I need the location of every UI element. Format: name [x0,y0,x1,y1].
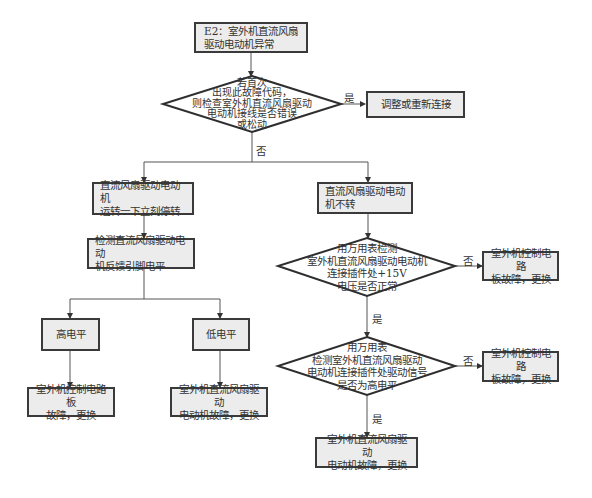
check-feedback-node: 检测直流风扇驱动电动 机反馈引脚电平 [87,238,195,269]
result-board-right1-node: 室外机控制电路 板故障，更换 [482,251,559,281]
symptom-no-spin-node: 直流风扇驱动电动 机不转 [317,182,413,214]
edge-label-d2-no: 否 [463,253,473,268]
action-reconnect-node: 调整或重新连接 [366,91,465,118]
decision1-node: 若首次 出现此故障代码， 则检查室外机直流风扇驱动 电动机接线是否错误 或松动 [178,78,326,130]
symptom-no-spin-text: 直流风扇驱动电动 机不转 [325,185,405,211]
action-reconnect-text: 调整或重新连接 [381,98,451,111]
decision1-text: 若首次 出现此故障代码， 则检查室外机直流风扇驱动 电动机接线是否错误 或松动 [192,78,312,131]
edge-label-d1-yes: 是 [344,90,354,105]
result-board-right2-text: 室外机控制电路 板故障，更换 [490,347,551,386]
edge-label-d2-yes: 是 [372,311,382,326]
symptom-stop-text: 直流风扇驱动电动机 运转一下立刻停转 [100,179,186,218]
edge-label-d3-yes: 是 [372,411,382,426]
high-level-node: 高电平 [41,318,100,351]
low-level-node: 低电平 [192,318,250,351]
result-board-right2-node: 室外机控制电路 板故障，更换 [482,351,559,382]
start-node: E2：室外机直流风扇 驱动电动机异常 [194,22,308,53]
low-level-text: 低电平 [206,328,236,341]
symptom-stop-node: 直流风扇驱动电动机 运转一下立刻停转 [92,182,194,215]
check-feedback-text: 检测直流风扇驱动电动 机反馈引脚电平 [95,234,187,273]
edge-label-d3-no: 否 [463,353,473,368]
decision3-text: 用万用表 检测室外机直流风扇驱动 电动机连接插件处驱动信号 是否为高电平 [307,341,427,391]
start-node-text: E2：室外机直流风扇 驱动电动机异常 [204,25,298,51]
decision2-node: 用万用表检测 室外机直流风扇驱动电动机 连接插件处+15V 电压是否正常 [292,244,442,290]
high-level-text: 高电平 [56,328,86,341]
result-board-left-text: 室外机控制电路板 故障，更换 [35,383,107,422]
result-motor-right-text: 室外机直流风扇驱动 电动机故障，更换 [323,433,410,472]
result-motor-left-node: 室外机直流风扇驱动 电动机故障，更换 [170,387,268,417]
result-board-left-node: 室外机控制电路板 故障，更换 [27,387,115,417]
result-motor-left-text: 室外机直流风扇驱动 电动机故障，更换 [178,383,260,422]
decision2-text: 用万用表检测 室外机直流风扇驱动电动机 连接插件处+15V 电压是否正常 [307,242,427,292]
result-board-right1-text: 室外机控制电路 板故障，更换 [490,247,551,286]
edge-label-d1-no: 否 [256,143,266,158]
result-motor-right-node: 室外机直流风扇驱动 电动机故障，更换 [315,437,418,468]
decision3-node: 用万用表 检测室外机直流风扇驱动 电动机连接插件处驱动信号 是否为高电平 [292,342,442,390]
